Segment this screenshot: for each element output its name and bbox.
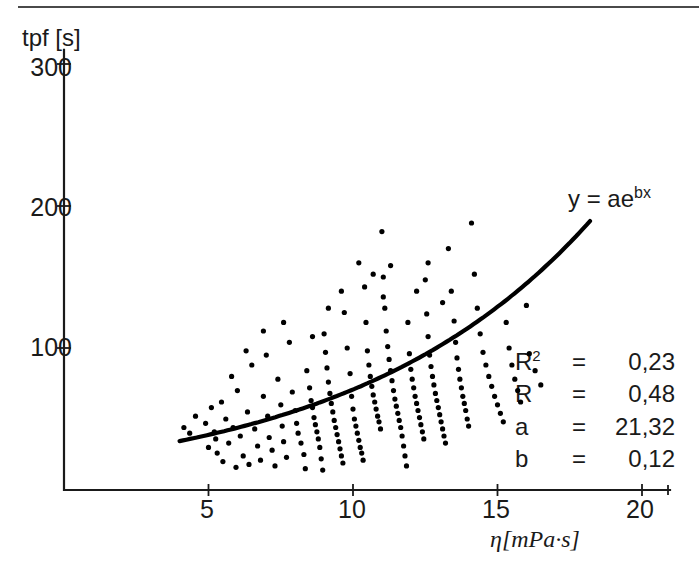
data-point (255, 443, 260, 448)
data-point (324, 365, 329, 370)
data-point (311, 415, 316, 420)
data-point (355, 431, 360, 436)
data-point (270, 448, 275, 453)
data-point (426, 260, 431, 265)
data-point (408, 367, 413, 372)
data-point (453, 340, 458, 345)
data-point (309, 398, 314, 403)
data-point (462, 401, 467, 406)
data-point (362, 284, 367, 289)
data-point (449, 289, 454, 294)
data-point (454, 355, 459, 360)
data-point (353, 424, 358, 429)
data-point (206, 445, 211, 450)
data-point (278, 402, 283, 407)
data-point (246, 462, 251, 467)
data-point (322, 331, 327, 336)
data-point (428, 364, 433, 369)
data-point (443, 441, 448, 446)
scatter-points (181, 220, 543, 472)
data-point (492, 394, 497, 399)
data-point (469, 220, 474, 225)
data-point (280, 424, 285, 429)
data-point (524, 303, 529, 308)
data-point (400, 433, 405, 438)
data-point (252, 426, 257, 431)
data-point (193, 414, 198, 419)
data-point (219, 399, 224, 404)
data-point (407, 351, 412, 356)
data-point (436, 405, 441, 410)
data-point (356, 438, 361, 443)
data-point (345, 345, 350, 350)
data-point (452, 318, 457, 323)
axes-group (57, 50, 670, 496)
data-point (433, 391, 438, 396)
data-point (411, 385, 416, 390)
data-point (431, 382, 436, 387)
data-point (320, 468, 325, 473)
data-point (187, 431, 192, 436)
plot-canvas (0, 0, 699, 585)
data-point (245, 409, 250, 414)
data-point (356, 260, 361, 265)
data-point (515, 388, 520, 393)
data-point (317, 445, 322, 450)
data-point (349, 394, 354, 399)
data-point (394, 404, 399, 409)
data-point (339, 453, 344, 458)
data-point (327, 391, 332, 396)
data-point (472, 272, 477, 277)
data-point (307, 385, 312, 390)
data-point (465, 416, 470, 421)
data-point (366, 362, 371, 367)
data-point (415, 408, 420, 413)
data-point (342, 310, 347, 315)
data-point (275, 377, 280, 382)
data-point (379, 229, 384, 234)
data-point (518, 399, 523, 404)
data-point (495, 402, 500, 407)
data-point (244, 348, 249, 353)
data-point (414, 401, 419, 406)
data-point (323, 350, 328, 355)
data-point (410, 377, 415, 382)
data-point (223, 416, 228, 421)
data-point (329, 401, 334, 406)
data-point (348, 371, 353, 376)
data-point (498, 411, 503, 416)
data-point (220, 459, 225, 464)
data-point (459, 385, 464, 390)
data-point (404, 463, 409, 468)
data-point (340, 460, 345, 465)
data-point (509, 362, 514, 367)
data-point (301, 452, 306, 457)
data-point (504, 320, 509, 325)
data-point (303, 466, 308, 471)
data-point (371, 272, 376, 277)
data-point (298, 441, 303, 446)
data-point (418, 422, 423, 427)
data-point (267, 435, 272, 440)
data-point (326, 380, 331, 385)
data-point (405, 320, 410, 325)
data-point (501, 419, 506, 424)
data-point (374, 407, 379, 412)
data-point (457, 377, 462, 382)
data-point (310, 334, 315, 339)
data-point (391, 388, 396, 393)
data-point (478, 331, 483, 336)
data-point (398, 425, 403, 430)
data-point (313, 422, 318, 427)
data-point (249, 362, 254, 367)
data-point (489, 384, 494, 389)
data-point (480, 350, 485, 355)
data-point (352, 416, 357, 421)
data-point (296, 431, 301, 436)
data-point (233, 465, 238, 470)
data-point (369, 384, 374, 389)
data-point (475, 306, 480, 311)
data-point (437, 412, 442, 417)
data-point (181, 425, 186, 430)
data-point (368, 374, 373, 379)
